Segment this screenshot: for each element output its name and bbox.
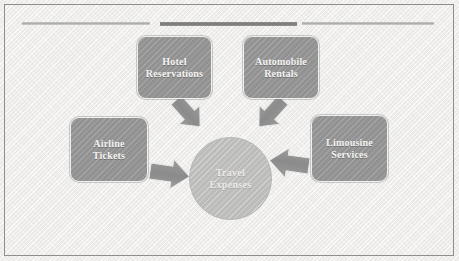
- node-box-hotel-reservations[interactable]: Hotel Reservations: [137, 36, 212, 99]
- node-label-hotel-reservations: Hotel Reservations: [142, 56, 207, 79]
- node-label-airline-tickets: Airline Tickets: [89, 138, 129, 161]
- node-label-travel-expenses: Travel Expenses: [210, 167, 252, 191]
- diagram-canvas: Hotel Reservations Automobile Rentals Ai…: [0, 0, 459, 261]
- arrow-limousine-to-center: [267, 146, 311, 181]
- node-circle-travel-expenses[interactable]: Travel Expenses: [189, 137, 272, 220]
- node-box-limousine-services[interactable]: Limousine Services: [311, 115, 388, 182]
- arrow-layer: [0, 0, 459, 261]
- node-box-automobile-rentals[interactable]: Automobile Rentals: [243, 36, 319, 99]
- arrow-airline-to-center: [148, 156, 192, 191]
- node-label-automobile-rentals: Automobile Rentals: [251, 56, 311, 79]
- node-label-limousine-services: Limousine Services: [322, 137, 377, 160]
- node-box-airline-tickets[interactable]: Airline Tickets: [70, 117, 148, 182]
